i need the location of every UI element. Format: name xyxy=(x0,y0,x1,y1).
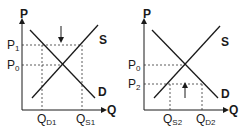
x-axis-label: Q xyxy=(229,103,238,117)
supply-demand-diagram: P Q S D P1 P0 QD1 QS1 P Q xyxy=(0,0,242,134)
y-axis-label: P xyxy=(143,7,151,21)
price-label-p1: P1 xyxy=(7,38,20,53)
quantity-label-qd2: QD2 xyxy=(196,112,216,127)
price-label-p0: P0 xyxy=(7,58,20,73)
quantity-label-qs2: QS2 xyxy=(163,112,183,127)
demand-label: D xyxy=(98,85,107,99)
supply-label: S xyxy=(99,33,107,47)
price-label-p2: P2 xyxy=(128,77,141,92)
supply-curve xyxy=(154,26,220,98)
supply-label: S xyxy=(221,35,229,49)
demand-curve xyxy=(30,30,95,98)
x-axis-label: Q xyxy=(107,103,116,117)
right-panel: P Q S D P0 P2 QS2 QD2 xyxy=(128,7,238,127)
quantity-label-qs1: QS1 xyxy=(76,112,96,127)
y-axis-label: P xyxy=(20,7,28,21)
quantity-label-qd1: QD1 xyxy=(37,112,57,127)
demand-label: D xyxy=(221,87,230,101)
left-panel: P Q S D P1 P0 QD1 QS1 xyxy=(7,7,116,127)
price-label-p0: P0 xyxy=(128,58,141,73)
